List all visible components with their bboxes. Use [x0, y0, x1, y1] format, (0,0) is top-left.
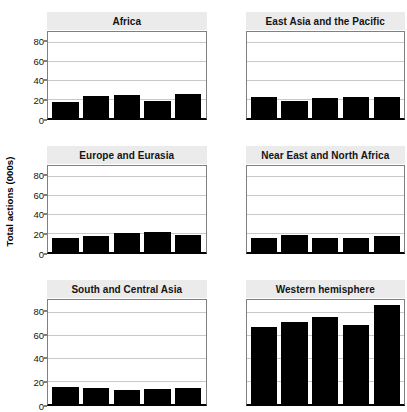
panel-title: Western hemisphere	[246, 280, 406, 298]
y-axis-tick-label: 40	[33, 75, 44, 86]
bar	[52, 387, 78, 404]
bar	[114, 233, 140, 252]
plot-area	[246, 165, 406, 254]
bar	[251, 97, 277, 118]
y-axis-tick-label: 40	[33, 209, 44, 220]
bar-group	[48, 300, 206, 404]
plot-area	[47, 165, 207, 254]
y-axis-tick-label: 20	[33, 229, 44, 240]
chart-panel: Western hemisphere020406080	[217, 268, 407, 402]
panel-grid: Africa020406080East Asia and the Pacific…	[18, 0, 407, 402]
y-axis: 020406080	[18, 299, 47, 406]
bar	[83, 236, 109, 252]
bar	[374, 97, 400, 118]
bar	[144, 101, 170, 118]
bar	[374, 305, 400, 404]
panel-title: Europe and Eurasia	[47, 146, 207, 164]
plot-area	[246, 31, 406, 120]
panel-title: Near East and North Africa	[246, 146, 406, 164]
bar	[312, 238, 338, 252]
bar	[114, 95, 140, 118]
bar	[175, 235, 201, 252]
bar	[83, 388, 109, 404]
bar-group	[247, 300, 405, 404]
y-axis-tick-label: 20	[33, 377, 44, 388]
bar	[281, 235, 307, 252]
chart-panel: Europe and Eurasia020406080	[18, 134, 209, 268]
y-axis: 020406080	[18, 165, 47, 254]
bar	[83, 96, 109, 118]
bar	[52, 238, 78, 252]
bar	[281, 101, 307, 118]
bar	[251, 238, 277, 252]
y-axis-tick-label: 40	[33, 353, 44, 364]
panel-title: Africa	[47, 12, 207, 30]
bar-group	[247, 32, 405, 118]
chart-panel: Near East and North Africa020406080	[217, 134, 407, 268]
bar	[343, 238, 369, 252]
y-axis-tick-label: 60	[33, 55, 44, 66]
bar	[343, 325, 369, 404]
y-axis-tick-label: 60	[33, 189, 44, 200]
bar	[251, 327, 277, 404]
bar	[144, 232, 170, 252]
bar	[175, 94, 201, 118]
bar	[312, 317, 338, 404]
panel-title: South and Central Asia	[47, 280, 207, 298]
y-axis-title-text: Total actions (000s)	[4, 156, 15, 246]
bar-group	[247, 166, 405, 252]
y-axis-tick-label: 80	[33, 35, 44, 46]
bar-group	[48, 32, 206, 118]
chart-panel: South and Central Asia020406080	[18, 268, 209, 402]
plot-area	[246, 299, 406, 406]
y-axis-title: Total actions (000s)	[0, 0, 18, 402]
y-axis-tick-label: 80	[33, 169, 44, 180]
plot-area	[47, 31, 207, 120]
plot-area	[47, 299, 207, 406]
y-axis-tick-label: 20	[33, 95, 44, 106]
bar	[312, 98, 338, 118]
bar	[144, 389, 170, 404]
panel-title: East Asia and the Pacific	[246, 12, 406, 30]
chart-panel: East Asia and the Pacific020406080	[217, 0, 407, 134]
bar-group	[48, 166, 206, 252]
y-axis-tick-label: 80	[33, 305, 44, 316]
bar	[52, 102, 78, 118]
y-axis: 020406080	[18, 31, 47, 120]
bar	[281, 322, 307, 404]
y-axis-tick-label: 60	[33, 329, 44, 340]
bar	[114, 390, 140, 404]
bar	[374, 236, 400, 252]
bar	[175, 388, 201, 404]
bar	[343, 97, 369, 118]
chart-panel: Africa020406080	[18, 0, 209, 134]
